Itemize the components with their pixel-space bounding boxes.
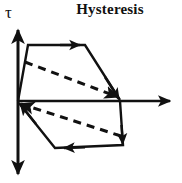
lower-dashed-branch bbox=[21, 104, 121, 136]
hysteresis-figure: Hysteresis τ bbox=[0, 0, 182, 183]
lower-branch-arrow-bottom bbox=[64, 147, 85, 148]
upper-branch-arrow-right bbox=[105, 77, 119, 99]
lower-branch-arrow-down bbox=[122, 125, 123, 144]
upper-dashed-branch bbox=[25, 62, 118, 97]
hysteresis-loop-plot bbox=[0, 0, 182, 183]
